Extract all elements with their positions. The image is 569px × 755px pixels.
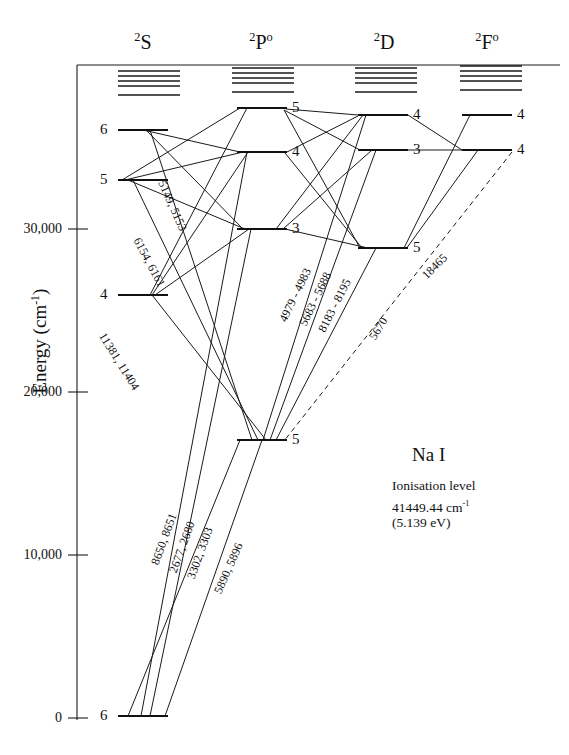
y-tick-label-10000: 10,000 [0,547,62,563]
column-header-2D-term: D [380,31,394,53]
ionisation-note-line-2: 41449.44 cm-1 [392,496,469,516]
level-label-P-5: 4 [292,143,300,160]
transition-6154 [133,180,258,440]
y-axis-title: Energy (cm-1) [29,241,51,441]
level-label-S-4: 4 [100,286,108,303]
transition-3302 [150,229,251,716]
grotrian-diagram: Energy (cm-1) 30,000 20,000 10,000 0 2S … [0,0,569,755]
level-label-S-5: 5 [100,171,108,188]
column-header-2D: 2D [339,30,429,54]
converging-series-F [460,66,522,90]
column-header-2F-post: o [493,30,499,44]
level-label-S-3: 6 [100,707,108,724]
transition-4979 [263,115,366,440]
transition-2677 [141,152,247,716]
ionisation-note-line-1: Ionisation level [392,478,476,494]
ionisation-unit-exponent: -1 [463,499,470,508]
level-label-P-4: 3 [292,220,300,237]
y-axis-title-exponent: -1 [29,295,42,305]
level-label-F-5: 4 [517,106,525,123]
level-label-F-4: 4 [517,141,525,158]
transition-5149 [150,130,252,440]
y-tick-label-20000: 20,000 [0,384,62,400]
column-header-2F-term: F [481,31,492,53]
column-header-2F: 2Fo [442,30,532,54]
diagram-canvas [0,0,569,755]
column-header-2S: 2S [98,30,188,54]
level-label-D-5: 4 [413,106,421,123]
y-tick-label-0: 0 [0,710,62,726]
y-tick-label-30000: 30,000 [0,221,62,237]
ionisation-note-line-3: (5.139 eV) [392,515,450,531]
converging-series-D [355,68,417,92]
y-axis-title-tail: ) [29,289,50,295]
transition-lines [122,108,500,716]
transition-5890 [165,440,262,716]
column-header-2P: 2Po [216,30,306,54]
ionisation-value: 41449.44 cm [392,500,463,515]
level-label-P-6: 5 [292,99,300,116]
transition-18465 [406,150,478,249]
converging-series-P [232,68,294,92]
level-label-D-4: 3 [413,141,421,158]
column-header-2P-term: P [255,31,266,53]
transition-11381 [152,295,266,440]
level-label-D-3: 5 [413,239,421,256]
column-header-2P-post: o [267,30,273,44]
element-label: Na I [412,444,445,466]
level-label-P-3: 5 [292,431,300,448]
converging-series-S [118,71,180,95]
level-label-S-6: 6 [100,121,108,138]
column-header-2S-term: S [141,31,152,53]
y-axis-title-text: Energy (cm [29,305,50,394]
